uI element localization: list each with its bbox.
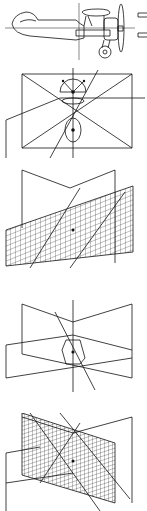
planes-sphere-figure <box>0 68 147 158</box>
planes-grid-figure <box>0 168 147 268</box>
biplane-drawing <box>0 0 147 62</box>
planes-ellipse-figure <box>0 300 147 392</box>
planes-dense-grid-drawing <box>0 413 147 511</box>
biplane-figure <box>0 0 147 62</box>
planes-sphere-drawing <box>0 68 147 158</box>
planes-grid-drawing <box>0 168 147 268</box>
planes-ellipse-drawing <box>0 300 147 392</box>
planes-dense-grid-figure <box>0 413 147 511</box>
